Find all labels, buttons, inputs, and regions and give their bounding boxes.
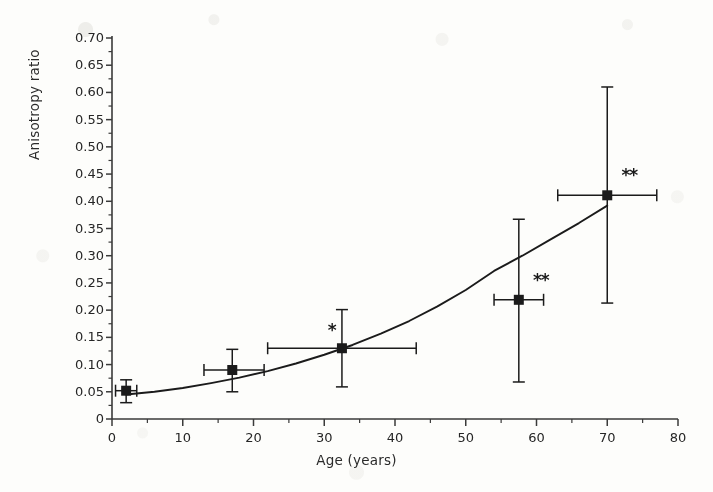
plot-canvas xyxy=(0,0,713,492)
data-point-marker xyxy=(602,190,612,200)
y-tick-label: 0.55 xyxy=(40,112,104,127)
y-tick-label: 0.35 xyxy=(40,221,104,236)
data-point-group xyxy=(494,219,544,382)
y-tick-label: 0.30 xyxy=(40,248,104,263)
y-tick-label: 0.05 xyxy=(40,384,104,399)
x-tick-label: 10 xyxy=(158,430,208,445)
anisotropy-vs-age-chart: Anisotropy ratio Age (years) 00.050.100.… xyxy=(0,0,713,492)
y-tick-label: 0.65 xyxy=(40,57,104,72)
data-point-group xyxy=(268,310,417,387)
x-tick-label: 40 xyxy=(370,430,420,445)
y-tick-label: 0.10 xyxy=(40,357,104,372)
data-point-marker xyxy=(337,343,347,353)
x-tick-label: 70 xyxy=(582,430,632,445)
data-point-group xyxy=(116,380,137,403)
significance-marker: * xyxy=(328,322,336,339)
y-tick-label: 0.40 xyxy=(40,193,104,208)
data-point-marker xyxy=(121,386,131,396)
data-point-group xyxy=(204,349,264,391)
y-tick-label: 0.45 xyxy=(40,166,104,181)
y-tick-label: 0.50 xyxy=(40,139,104,154)
x-tick-label: 20 xyxy=(229,430,279,445)
significance-marker: ** xyxy=(621,167,637,184)
x-axis-title: Age (years) xyxy=(0,452,713,468)
x-tick-label: 60 xyxy=(512,430,562,445)
x-tick-label: 80 xyxy=(653,430,703,445)
y-tick-label: 0 xyxy=(40,411,104,426)
y-tick-label: 0.25 xyxy=(40,275,104,290)
y-tick-label: 0.15 xyxy=(40,329,104,344)
data-point-group xyxy=(558,87,657,303)
y-tick-label: 0.60 xyxy=(40,84,104,99)
y-tick-label: 0.70 xyxy=(40,30,104,45)
x-tick-label: 50 xyxy=(441,430,491,445)
x-tick-label: 0 xyxy=(87,430,137,445)
significance-marker: ** xyxy=(533,272,549,289)
y-tick-label: 0.20 xyxy=(40,302,104,317)
x-axis-title-text: Age (years) xyxy=(316,452,396,468)
data-point-marker xyxy=(514,295,524,305)
x-tick-label: 30 xyxy=(299,430,349,445)
data-point-marker xyxy=(227,365,237,375)
